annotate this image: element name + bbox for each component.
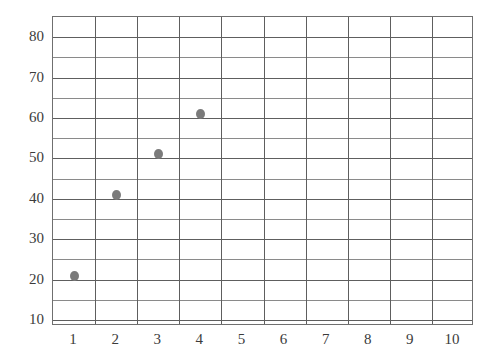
- x-axis-tick-label: 4: [196, 331, 204, 348]
- x-axis-tick-label: 7: [322, 331, 330, 348]
- y-axis-tick-label: 60: [0, 108, 44, 125]
- data-point: [70, 271, 79, 281]
- y-axis-tick-label: 40: [0, 189, 44, 206]
- x-axis-tick-label: 8: [364, 331, 372, 348]
- data-point: [154, 149, 163, 159]
- x-axis-tick-label: 10: [444, 331, 459, 348]
- x-axis-tick-labels: 12345678910: [52, 331, 473, 357]
- y-axis-tick-label: 10: [0, 310, 44, 327]
- data-point: [196, 109, 205, 119]
- y-axis-tick-label: 50: [0, 149, 44, 166]
- data-points-layer: [53, 17, 472, 324]
- x-axis-tick-label: 6: [280, 331, 288, 348]
- x-axis-tick-label: 5: [238, 331, 246, 348]
- x-axis-tick-label: 9: [406, 331, 414, 348]
- data-point: [112, 190, 121, 200]
- y-axis-tick-label: 20: [0, 270, 44, 287]
- y-axis-tick-label: 30: [0, 230, 44, 247]
- plot-area: [52, 16, 473, 325]
- x-axis-tick-label: 1: [69, 331, 77, 348]
- y-axis-tick-label: 70: [0, 68, 44, 85]
- scatter-chart: 1020304050607080 12345678910: [0, 0, 497, 363]
- x-axis-tick-label: 3: [154, 331, 162, 348]
- y-axis-tick-labels: 1020304050607080: [0, 16, 44, 325]
- x-axis-tick-label: 2: [111, 331, 119, 348]
- y-axis-tick-label: 80: [0, 28, 44, 45]
